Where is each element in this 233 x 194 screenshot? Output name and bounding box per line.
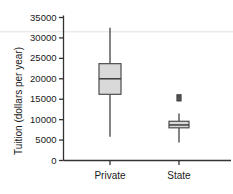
y-tick-label-0: 0 [51, 156, 56, 166]
y-tick-label-15000: 15000 [30, 94, 56, 104]
y-tick-label-5000: 5000 [35, 135, 56, 145]
y-tick-label-10000: 10000 [30, 115, 56, 125]
x-category-label-private: Private [70, 170, 150, 181]
outlier-cluster-state [177, 94, 181, 101]
y-tick-label-30000: 30000 [30, 33, 56, 43]
boxplot-figure: Tuition (dollars per year) 0500010000150… [0, 0, 233, 194]
y-tick-label-20000: 20000 [30, 74, 56, 84]
x-category-label-state: State [139, 170, 219, 181]
y-tick-label-25000: 25000 [30, 53, 56, 63]
y-tick-label-35000: 35000 [30, 13, 56, 23]
